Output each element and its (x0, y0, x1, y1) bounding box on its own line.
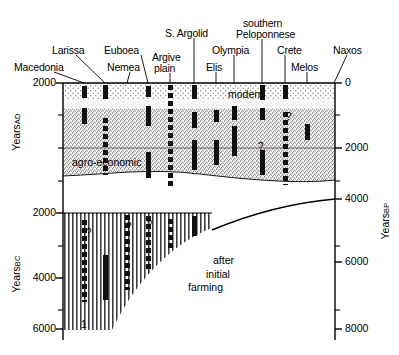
record-bar (192, 140, 197, 170)
left-tick-label-8: 6000 (14, 323, 56, 334)
record-bar (232, 106, 237, 120)
record-bar-segment (146, 248, 151, 253)
record-bar-segment (125, 239, 130, 244)
record-bar-segment (82, 252, 87, 257)
record-bar-segment (103, 126, 108, 131)
record-bar-segment (125, 215, 130, 220)
record-bar-segment (125, 263, 130, 268)
left-axis-title-ad: YearsAD (10, 102, 22, 162)
uncertainty-marker: ? (86, 228, 92, 238)
zone-label-initial: initial (206, 268, 230, 280)
record-bar-segment (168, 157, 173, 162)
uncertainty-marker: ? (286, 112, 292, 122)
record-bar-segment (82, 276, 87, 281)
record-bar-segment (103, 174, 108, 175)
record-bar-segment (283, 176, 288, 181)
record-bar-segment (168, 133, 173, 138)
site-label-larissa: Larissa (52, 45, 84, 56)
left-tick-label-0: 2000 (14, 77, 56, 88)
right-tick-label-6: 6000 (345, 256, 368, 267)
left-axis-title-bc: YearsBC (10, 244, 22, 304)
record-bar-segment (168, 165, 173, 170)
transition-curve (212, 199, 335, 230)
record-bar-segment (283, 152, 288, 157)
zone-label-after: after (213, 254, 234, 266)
right-tick-label-2: 2000 (345, 142, 368, 153)
site-leader-0 (54, 72, 84, 83)
record-bar-segment (146, 240, 151, 245)
record-bar-segment (146, 232, 151, 237)
record-bar-segment (82, 284, 87, 289)
record-bar-segment (82, 268, 87, 273)
record-bar-segment (82, 260, 87, 265)
site-label-melos: Melos (291, 62, 318, 73)
record-bar-segment (146, 264, 151, 269)
record-bar (192, 85, 197, 99)
record-bar-segment (283, 136, 288, 141)
record-bar-segment (283, 128, 288, 133)
record-bar (103, 85, 108, 99)
zone-label-farming: farming (188, 281, 223, 293)
record-bar-segment (283, 168, 288, 173)
record-bar-segment (168, 125, 173, 130)
site-label-crete: Crete (277, 45, 302, 56)
site-label-peloponnese: Peloponnese (236, 29, 295, 40)
record-bar-segment (168, 93, 173, 98)
record-bar-segment (82, 292, 87, 297)
record-bar-segment (103, 134, 108, 139)
record-bar-segment (168, 219, 173, 224)
record-bar-segment (82, 244, 87, 249)
uncertainty-marker: ? (147, 220, 153, 230)
figure-root: 2000200040006000 02000400060008000 Years… (0, 0, 399, 355)
record-bar (146, 86, 151, 97)
record-bar-segment (283, 184, 288, 185)
site-label-macedonia: Macedonia (14, 62, 64, 73)
site-label-s-argolid: S. Argolid (165, 28, 208, 39)
record-bar (82, 108, 87, 124)
record-bar-segment (103, 118, 108, 123)
site-leader-3 (141, 55, 148, 83)
record-bar-segment (82, 220, 87, 225)
right-tick-label-8: 8000 (345, 323, 368, 334)
record-bar-segment (283, 160, 288, 165)
zone-label-agro-economic: agro-economic (72, 156, 141, 168)
right-axis-title: YearsBP (379, 191, 391, 251)
record-bar-segment (168, 85, 173, 90)
record-bar-segment (125, 279, 130, 284)
uncertainty-marker: ? (258, 142, 264, 152)
record-bar-segment (168, 181, 173, 186)
record-bar-segment (103, 150, 108, 155)
record-bar-segment (168, 109, 173, 114)
site-label-naxos: Naxos (333, 45, 362, 56)
uncertainty-marker: ? (126, 222, 132, 232)
record-bar (214, 140, 219, 165)
site-label-euboea: Euboea (104, 45, 139, 56)
record-bar-segment (103, 142, 108, 147)
record-bar (146, 106, 151, 126)
record-bar-segment (168, 227, 173, 232)
record-bar-segment (283, 144, 288, 149)
right-tick-label-0: 0 (345, 77, 351, 88)
record-bar (214, 110, 219, 122)
record-bar (260, 108, 265, 120)
record-bar-segment (168, 101, 173, 106)
record-bar-segment (168, 243, 173, 248)
record-bar-segment (146, 256, 151, 261)
site-label-elis: Elis (206, 62, 222, 73)
site-leader-2 (127, 72, 130, 83)
record-bar (146, 152, 151, 178)
site-label-nemea: Nemea (107, 62, 140, 73)
record-bar-segment (168, 117, 173, 122)
record-bar-segment (125, 255, 130, 260)
record-bar (283, 85, 288, 99)
record-bar (260, 150, 265, 175)
zone-label-1: 1 (81, 318, 87, 330)
record-bar (232, 126, 237, 156)
record-bar (305, 124, 310, 140)
record-bar (192, 112, 197, 128)
site-label-olympia: Olympia (212, 45, 249, 56)
record-bar-segment (125, 271, 130, 276)
record-bar-segment (82, 300, 87, 302)
record-bar-segment (168, 235, 173, 240)
record-bar-segment (125, 247, 130, 252)
